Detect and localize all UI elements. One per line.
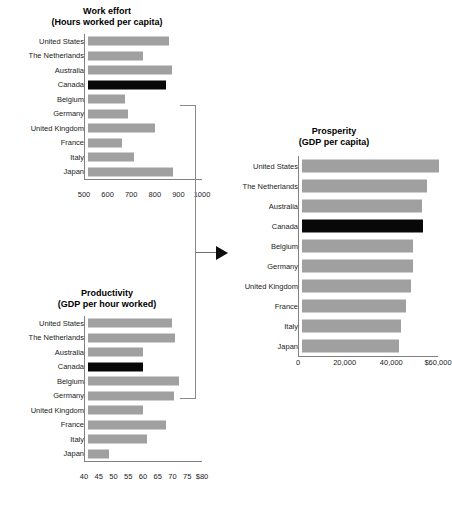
x-axis-line: [84, 461, 202, 462]
bar: [88, 167, 173, 176]
bar-highlighted: [88, 80, 166, 89]
bar-highlighted: [302, 220, 423, 233]
category-label: Canada: [222, 222, 302, 231]
x-tick-label: 45: [95, 472, 103, 481]
category-label: France: [4, 138, 88, 147]
prosperity-x-axis-ticks: 020,00040,000$60,000: [222, 358, 446, 370]
category-label: Italy: [4, 153, 88, 162]
y-axis-line: [84, 34, 85, 179]
chart-prosperity: Prosperity (GDP per capita) United State…: [222, 126, 446, 376]
bar-track: [88, 432, 210, 447]
bar-row: Australia: [222, 196, 446, 216]
x-tick-label: 75: [183, 472, 191, 481]
bracket-top-arm: [180, 105, 196, 106]
category-label: Canada: [4, 362, 88, 371]
category-label: Australia: [222, 202, 302, 211]
bar-track: [302, 196, 446, 216]
x-tick-label: 40: [80, 472, 88, 481]
x-tick-label: 55: [124, 472, 132, 481]
x-tick-label: 700: [125, 190, 138, 199]
x-tick-label: $80: [196, 472, 209, 481]
bar: [88, 124, 155, 133]
bar: [88, 391, 174, 400]
category-label: Italy: [222, 322, 302, 331]
bar: [88, 51, 143, 60]
category-label: Germany: [4, 109, 88, 118]
category-label: Belgium: [4, 377, 88, 386]
bar: [302, 240, 413, 253]
x-tick-label: 50: [109, 472, 117, 481]
productivity-title-line1: Productivity: [81, 288, 133, 298]
bar: [302, 160, 439, 173]
bar: [88, 37, 169, 46]
x-axis-line: [298, 356, 438, 357]
bracket-bottom-arm: [180, 398, 196, 399]
bar-track: [302, 256, 446, 276]
category-label: Germany: [4, 391, 88, 400]
category-label: United States: [222, 162, 302, 171]
bar: [88, 319, 172, 328]
bar-row: The Netherlands: [4, 49, 210, 64]
bar: [88, 377, 179, 386]
category-label: Italy: [4, 435, 88, 444]
category-label: Germany: [222, 262, 302, 271]
y-axis-line: [84, 316, 85, 461]
bar-row: Australia: [4, 63, 210, 78]
category-label: France: [4, 420, 88, 429]
bar: [302, 340, 399, 353]
category-label: United Kingdom: [4, 124, 88, 133]
prosperity-subtitle: (GDP per capita): [222, 137, 446, 148]
bar: [88, 153, 134, 162]
bar-row: Germany: [222, 256, 446, 276]
productivity-x-axis-ticks: 4045505560657075$80: [4, 472, 210, 484]
bar-row: France: [4, 418, 210, 433]
bar-track: [88, 403, 210, 418]
bar-track: [302, 296, 446, 316]
bar: [302, 280, 411, 293]
bar-row: Canada: [4, 78, 210, 93]
bar-track: [88, 418, 210, 433]
bar: [88, 449, 109, 458]
category-label: Japan: [4, 167, 88, 176]
bar-track: [302, 316, 446, 336]
work-effort-title-line1: Work effort: [83, 6, 131, 16]
bar: [88, 333, 175, 342]
bar-track: [88, 49, 210, 64]
x-tick-label: 0: [296, 358, 300, 367]
category-label: France: [222, 302, 302, 311]
bar: [88, 138, 122, 147]
bar-track: [302, 336, 446, 356]
bar: [302, 320, 401, 333]
category-label: United States: [4, 319, 88, 328]
arrow-head-icon: [216, 246, 228, 260]
bar: [88, 66, 172, 75]
category-label: The Netherlands: [222, 182, 302, 191]
category-label: Belgium: [222, 242, 302, 251]
bar-row: Italy: [222, 316, 446, 336]
bar: [88, 109, 128, 118]
bar: [88, 435, 147, 444]
category-label: Japan: [4, 449, 88, 458]
category-label: The Netherlands: [4, 333, 88, 342]
prosperity-plot-area: United StatesThe NetherlandsAustraliaCan…: [222, 156, 446, 356]
bar-track: [302, 236, 446, 256]
bracket-work-effort-productivity: [180, 105, 196, 399]
bar: [302, 300, 406, 313]
bar-row: Belgium: [222, 236, 446, 256]
arrow-shaft: [196, 252, 216, 253]
bar: [88, 95, 125, 104]
bar-row: United States: [4, 34, 210, 49]
x-tick-label: 20,000: [333, 358, 356, 367]
bar-track: [88, 78, 210, 93]
y-axis-line: [298, 156, 299, 356]
x-tick-label: 60: [139, 472, 147, 481]
x-tick-label: 70: [168, 472, 176, 481]
category-label: The Netherlands: [4, 51, 88, 60]
prosperity-title-line1: Prosperity: [312, 126, 357, 136]
category-label: Australia: [4, 66, 88, 75]
bar-track: [302, 156, 446, 176]
x-tick-label: 500: [78, 190, 91, 199]
x-tick-label: $60,000: [424, 358, 451, 367]
bar-row: The Netherlands: [222, 176, 446, 196]
bar-track: [88, 63, 210, 78]
